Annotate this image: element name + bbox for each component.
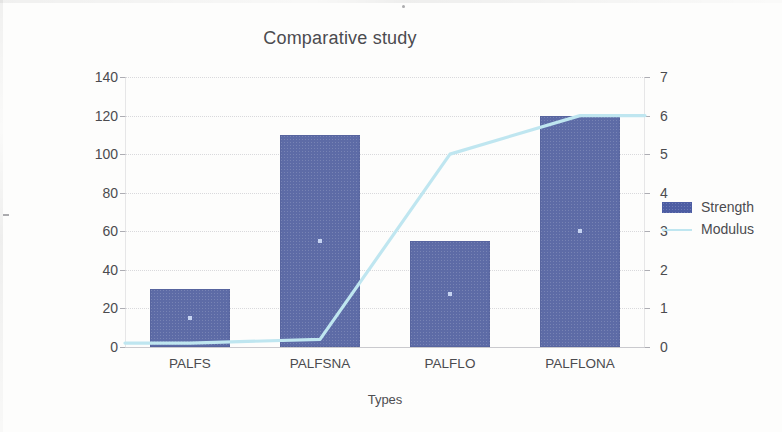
- x-axis-title: Types: [125, 392, 645, 407]
- scan-edge-top: [0, 0, 782, 3]
- chart-title: Comparative study: [0, 28, 680, 49]
- line-series-modulus: [125, 77, 645, 347]
- scan-speck: [3, 214, 9, 216]
- x-tick-label: PALFLO: [385, 356, 515, 371]
- legend-label-modulus: Modulus: [701, 221, 754, 237]
- x-tick-label: PALFLONA: [515, 356, 645, 371]
- scan-edge-left: [0, 0, 3, 432]
- y-tick-label-right: 2: [660, 263, 684, 277]
- legend-item-modulus[interactable]: Modulus: [662, 218, 780, 240]
- tickmark-right: [645, 308, 650, 309]
- y-tick-label-right: 1: [660, 301, 684, 315]
- y-tick-label-left: 60: [70, 224, 118, 238]
- tickmark-right: [645, 347, 650, 348]
- tickmark-left: [120, 347, 125, 348]
- x-tick-label: PALFS: [125, 356, 255, 371]
- tickmark-right: [645, 77, 650, 78]
- y-tick-label-left: 80: [70, 186, 118, 200]
- x-axis-ticks: PALFSPALFSNAPALFLOPALFLONA: [125, 356, 645, 380]
- legend-label-strength: Strength: [701, 199, 754, 215]
- bar-swatch-icon: [662, 202, 692, 213]
- chart-legend: Strength Modulus: [662, 196, 780, 240]
- tickmark-right: [645, 154, 650, 155]
- tickmark-right: [645, 193, 650, 194]
- y-tick-label-right: 7: [660, 70, 684, 84]
- y-tick-label-left: 0: [70, 340, 118, 354]
- y-tick-label-right: 0: [660, 340, 684, 354]
- y-tick-label-right: 6: [660, 109, 684, 123]
- tickmark-right: [645, 231, 650, 232]
- y-tick-label-left: 140: [70, 70, 118, 84]
- line-swatch-icon: [662, 224, 692, 235]
- axis-baseline: [125, 347, 645, 348]
- y-tick-label-left: 100: [70, 147, 118, 161]
- y-axis-left-ticks: 020406080100120140: [70, 77, 118, 347]
- legend-item-strength[interactable]: Strength: [662, 196, 780, 218]
- y-tick-label-right: 5: [660, 147, 684, 161]
- y-tick-label-left: 20: [70, 301, 118, 315]
- modulus-polyline: [125, 116, 645, 344]
- y-tick-label-left: 40: [70, 263, 118, 277]
- tickmark-right: [645, 270, 650, 271]
- scan-speck: [402, 5, 405, 8]
- chart-page: Comparative study Flexural strenght (MPa…: [0, 0, 782, 432]
- y-tick-label-left: 120: [70, 109, 118, 123]
- plot-area: [125, 77, 645, 347]
- x-tick-label: PALFSNA: [255, 356, 385, 371]
